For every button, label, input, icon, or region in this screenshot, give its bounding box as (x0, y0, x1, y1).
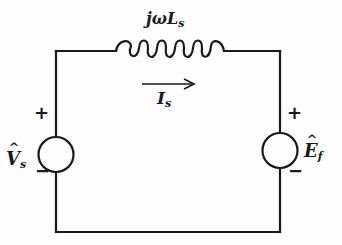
left-source-label: ^Vs (6, 150, 26, 170)
right-source-hat: ^ (306, 133, 317, 146)
inductor-coil-icon (116, 41, 224, 58)
right-source-minus: − (288, 162, 303, 180)
inductor-label-sub: s (178, 17, 184, 30)
left-source-minus: − (35, 162, 50, 180)
right-source-label-sub: f (318, 150, 323, 163)
current-label: Is (157, 90, 171, 109)
current-label-sub: s (165, 97, 171, 110)
left-source-hat: ^ (9, 141, 20, 154)
right-source-label: ^Ef (304, 142, 322, 162)
current-label-main: I (157, 88, 165, 108)
inductor-label: jωLs (146, 11, 184, 29)
left-source-label-sub: s (20, 158, 26, 171)
inductor-label-prefix: jω (146, 9, 167, 28)
inductor-label-main: L (167, 9, 178, 28)
left-source-plus: + (34, 104, 49, 122)
right-source-plus: + (287, 104, 302, 122)
